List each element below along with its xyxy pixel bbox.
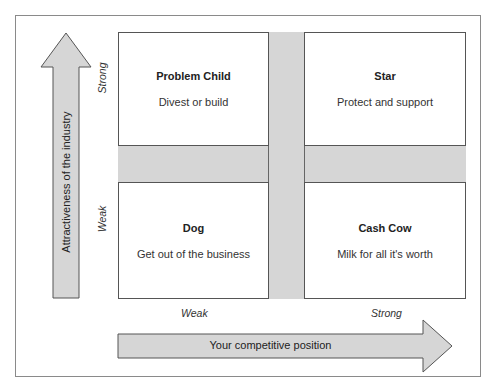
quadrant-description: Protect and support bbox=[337, 96, 433, 108]
band-intersection bbox=[269, 146, 304, 182]
quadrant-dog: Dog Get out of the business bbox=[118, 182, 269, 299]
x-axis-high-label: Strong bbox=[371, 307, 402, 319]
y-axis-low-label: Weak bbox=[96, 199, 108, 239]
quadrant-description: Milk for all it's worth bbox=[337, 248, 433, 260]
quadrant-title: Dog bbox=[183, 222, 204, 234]
quadrant-title: Cash Cow bbox=[358, 222, 411, 234]
quadrant-description: Divest or build bbox=[159, 96, 229, 108]
quadrant-title: Star bbox=[374, 70, 395, 82]
quadrant-description: Get out of the business bbox=[137, 248, 250, 260]
matrix-grid: Problem Child Divest or build Star Prote… bbox=[118, 32, 466, 299]
y-axis-title: Attractiveness of the industry bbox=[59, 104, 73, 260]
x-axis-title: Your competitive position bbox=[118, 339, 423, 351]
quadrant-star: Star Protect and support bbox=[304, 32, 466, 146]
x-axis-low-label: Weak bbox=[181, 307, 208, 319]
y-axis-high-label: Strong bbox=[96, 58, 108, 98]
quadrant-problem-child: Problem Child Divest or build bbox=[118, 32, 269, 146]
quadrant-title: Problem Child bbox=[156, 70, 231, 82]
quadrant-cash-cow: Cash Cow Milk for all it's worth bbox=[304, 182, 466, 299]
